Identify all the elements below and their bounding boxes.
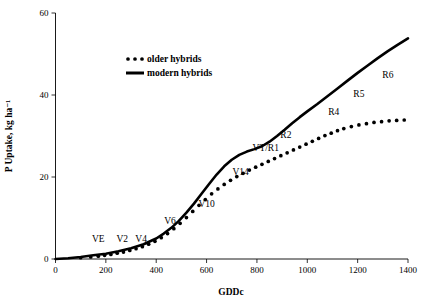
older-hybrids-point [329,131,333,135]
stage-label-v4: V4 [135,234,147,244]
y-tick-label: 60 [40,8,50,18]
older-hybrids-point [298,145,302,149]
stage-label-r6: R6 [382,70,393,80]
chart-canvas: 0204060 0200400600800100012001400 VEV2V4… [0,0,422,300]
older-hybrids-point [372,121,376,125]
series-solid [56,38,409,259]
older-hybrids-point [350,125,354,129]
y-axis-ticks: 0204060 [40,8,56,264]
older-hybrids-point [387,119,391,123]
older-hybrids-point [273,157,277,161]
x-tick-label: 400 [149,265,163,275]
legend-label-older: older hybrids [147,54,202,64]
older-hybrids-point [279,154,283,158]
x-tick-label: 600 [200,265,214,275]
older-hybrids-point [191,210,195,214]
modern-hybrids-line [56,38,409,259]
y-tick-label: 0 [44,254,49,264]
older-hybrids-point [402,118,406,122]
y-tick-label: 40 [40,90,50,100]
x-tick-label: 1200 [349,265,368,275]
stage-label-v2: V2 [116,234,128,244]
older-hybrids-point [210,192,214,196]
older-hybrids-point [229,178,233,182]
older-hybrids-point [304,142,308,146]
older-hybrids-point [292,148,296,152]
x-axis-title: GDDc [218,287,243,297]
older-hybrids-point [357,123,361,127]
older-hybrids-point [365,122,369,126]
stage-label-v10: V10 [198,199,215,209]
stage-label-vt-r1: VT/R1 [253,143,280,153]
older-hybrids-point [317,137,321,141]
y-axis-title: P Uptake, kg ha⁻¹ [4,100,14,172]
x-axis-ticks: 0200400600800100012001400 [53,259,417,275]
older-hybrids-point [323,134,327,138]
older-hybrids-point [336,129,340,133]
stage-annotations-layer: VEV2V4V6V10V14VT/R1R2R4R5R6 [92,70,394,244]
legend-dot-marker [126,57,130,61]
older-hybrids-point [342,127,346,131]
y-tick-label: 20 [40,172,50,182]
older-hybrids-point [254,165,258,169]
legend-dot-marker [140,57,144,61]
x-tick-label: 200 [99,265,113,275]
x-tick-label: 0 [53,265,58,275]
stage-label-v14: V14 [232,167,249,177]
chart-figure: 0204060 0200400600800100012001400 VEV2V4… [0,0,422,300]
stage-label-r5: R5 [353,89,364,99]
older-hybrids-point [266,160,270,164]
legend-dot-marker [133,57,137,61]
stage-label-ve: VE [92,234,105,244]
older-hybrids-point [185,216,189,220]
older-hybrids-point [216,187,220,191]
x-tick-label: 1400 [399,265,418,275]
data-series-layer [56,38,409,259]
older-hybrids-point [395,119,399,123]
legend-label-modern: modern hybrids [147,68,212,78]
stage-label-r2: R2 [280,130,291,140]
older-hybrids-point [380,120,384,124]
stage-label-v6: V6 [164,216,176,226]
x-tick-label: 800 [250,265,264,275]
axes-group [56,13,409,259]
stage-label-r4: R4 [328,107,339,117]
older-hybrids-point [222,183,226,187]
x-tick-label: 1000 [298,265,317,275]
older-hybrids-point [285,151,289,155]
older-hybrids-point [310,139,314,143]
chart-legend: older hybridsmodern hybrids [126,54,212,78]
older-hybrids-point [260,162,264,166]
